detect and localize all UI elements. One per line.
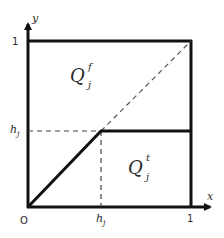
- region-label-lower-sup: t: [146, 152, 151, 163]
- y-tick-one: 1: [12, 36, 18, 47]
- boundary-curve: [28, 131, 191, 207]
- y-tick-h: hj: [10, 123, 20, 138]
- y-axis-label: y: [31, 12, 39, 25]
- region-label-lower: Q: [128, 157, 143, 178]
- x-tick-one: 1: [187, 213, 193, 224]
- unit-square-diagram: y x O 1 1 hj hj Q f j Q t j: [0, 0, 224, 238]
- region-label-lower-sub: j: [144, 171, 149, 182]
- x-axis-label: x: [207, 190, 214, 203]
- diagonal-dashed-line: [101, 41, 191, 131]
- region-label-upper-sup: f: [87, 61, 94, 72]
- origin-label: O: [20, 215, 28, 226]
- region-label-upper-sub: j: [86, 79, 91, 90]
- region-label-upper: Q: [70, 65, 85, 86]
- x-tick-h: hj: [96, 212, 106, 227]
